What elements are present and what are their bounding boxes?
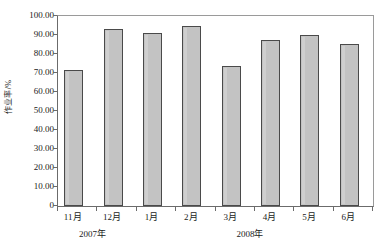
bar xyxy=(261,40,280,206)
x-axis-tick-mark xyxy=(96,206,97,211)
bar xyxy=(143,33,162,206)
bar xyxy=(182,26,201,206)
x-axis-tick-label: 5月 xyxy=(289,212,329,223)
plot-area xyxy=(57,15,374,207)
y-axis-tick-label: 70.00 xyxy=(6,68,54,77)
x-axis-tick-label: 4月 xyxy=(250,212,290,223)
x-axis-tick-mark xyxy=(57,206,58,211)
x-axis-group-label: 2007年 xyxy=(52,229,132,240)
bar xyxy=(104,29,123,206)
x-axis-tick-mark xyxy=(293,206,294,211)
x-axis-tick-mark xyxy=(333,206,334,211)
bar xyxy=(340,44,359,206)
y-axis-tick-label: 60.00 xyxy=(6,87,54,96)
y-axis-tick-label: 10.00 xyxy=(6,182,54,191)
x-axis-tick-label: 1月 xyxy=(131,212,171,223)
x-axis-tick-mark xyxy=(372,206,373,211)
y-axis-tick-label: 80.00 xyxy=(6,49,54,58)
x-axis-tick-label: 12月 xyxy=(92,212,132,223)
x-axis-group-label: 2008年 xyxy=(210,229,290,240)
y-axis-tick-label: 30.00 xyxy=(6,144,54,153)
y-axis-tick-label: 90.00 xyxy=(6,30,54,39)
x-axis-tick-label: 2月 xyxy=(171,212,211,223)
x-axis-tick-label: 6月 xyxy=(328,212,368,223)
y-axis-tick-label: 20.00 xyxy=(6,163,54,172)
y-axis-tick-label: 50.00 xyxy=(6,106,54,115)
x-axis-tick-mark xyxy=(175,206,176,211)
y-axis-tick-label: 40.00 xyxy=(6,125,54,134)
x-axis-tick-mark xyxy=(254,206,255,211)
bar xyxy=(222,66,241,206)
y-axis-tick-label: 100.00 xyxy=(6,11,54,20)
y-axis-tick-label: 0 xyxy=(6,201,54,210)
bar xyxy=(300,35,319,206)
x-axis-tick-mark xyxy=(136,206,137,211)
bar xyxy=(64,70,83,206)
x-axis-tick-mark xyxy=(215,206,216,211)
x-axis-tick-label: 11月 xyxy=(53,212,93,223)
x-axis-tick-label: 3月 xyxy=(210,212,250,223)
bar-chart: 作业率/% 100.0090.0080.0070.0060.0050.0040.… xyxy=(0,0,379,252)
